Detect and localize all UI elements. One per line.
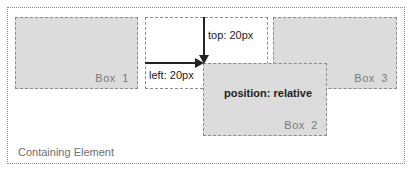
top-offset-label: top: 20px bbox=[208, 29, 253, 41]
box-1-label: Box 1 bbox=[95, 72, 129, 84]
box-2-relative: position: relative Box 2 bbox=[203, 63, 327, 136]
left-offset-arrow-line bbox=[145, 62, 197, 64]
containing-element-label: Containing Element bbox=[18, 146, 114, 158]
position-relative-label: position: relative bbox=[224, 87, 312, 99]
box-2-label: Box 2 bbox=[284, 119, 318, 131]
top-offset-arrow-line bbox=[203, 17, 205, 57]
left-offset-label: left: 20px bbox=[149, 69, 194, 81]
box-3-label: Box 3 bbox=[354, 72, 388, 84]
box-1: Box 1 bbox=[15, 17, 138, 89]
arrow-right-icon bbox=[195, 58, 204, 68]
